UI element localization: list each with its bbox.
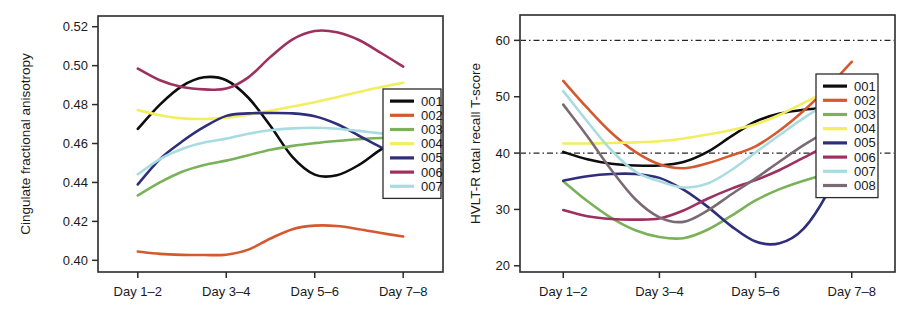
two-panel-line-chart-figure: 0.520.500.480.460.440.420.40Day 1–2Day 3… (0, 0, 917, 314)
y-axis-tick-label: 30 (496, 202, 510, 217)
x-axis-tick-label: Day 7–8 (828, 284, 876, 299)
y-axis-title: Cingulate fractional anisotropy (18, 53, 33, 235)
legend-label-004: 004 (421, 136, 443, 151)
y-axis-tick-label: 0.52 (63, 19, 88, 34)
hvlt-r-total-recall-tscore-plot: 6050403020Day 1–2Day 3–4Day 5–6Day 7–8HV… (458, 0, 917, 314)
y-axis-tick-label: 0.48 (63, 97, 88, 112)
legend-label-001: 001 (854, 79, 876, 94)
y-axis-tick-label: 50 (496, 89, 510, 104)
series-line-004 (563, 80, 851, 144)
y-axis-tick-label: 0.46 (63, 136, 88, 151)
y-axis-tick-label: 0.42 (63, 214, 88, 229)
y-axis-tick-label: 0.44 (63, 175, 88, 190)
legend-label-005: 005 (854, 135, 876, 150)
y-axis-tick-label: 0.50 (63, 58, 88, 73)
cingulate-fractional-anisotropy-plot: 0.520.500.480.460.440.420.40Day 1–2Day 3… (0, 0, 458, 314)
series-group (138, 30, 403, 255)
y-axis-tick-label: 40 (496, 146, 510, 161)
y-axis-tick-label: 60 (496, 33, 510, 48)
series-line-002 (138, 225, 403, 255)
x-axis-tick-label: Day 5–6 (291, 284, 339, 299)
chart-panel-left: 0.520.500.480.460.440.420.40Day 1–2Day 3… (0, 0, 458, 314)
legend-label-001: 001 (421, 94, 443, 109)
legend-label-002: 002 (421, 108, 443, 123)
y-axis-tick-label: 20 (496, 258, 510, 273)
legend-label-006: 006 (854, 150, 876, 165)
series-line-006 (138, 30, 403, 89)
legend-label-003: 003 (854, 107, 876, 122)
series-line-003 (563, 169, 851, 239)
x-axis-tick-label: Day 1–2 (539, 284, 587, 299)
legend-label-002: 002 (854, 93, 876, 108)
legend-label-004: 004 (854, 121, 876, 136)
legend-label-008: 008 (854, 178, 876, 193)
y-axis-title: HVLT-R total recall T-score (468, 63, 483, 224)
legend-label-007: 007 (854, 164, 876, 179)
legend-label-006: 006 (421, 165, 443, 180)
legend-label-005: 005 (421, 150, 443, 165)
x-axis-tick-label: Day 5–6 (731, 284, 779, 299)
x-axis-tick-label: Day 3–4 (635, 284, 683, 299)
x-axis-tick-label: Day 3–4 (202, 284, 250, 299)
chart-panel-right: 6050403020Day 1–2Day 3–4Day 5–6Day 7–8HV… (458, 0, 916, 314)
legend-label-003: 003 (421, 122, 443, 137)
y-axis-tick-label: 0.40 (63, 253, 88, 268)
x-axis-tick-label: Day 7–8 (379, 284, 427, 299)
x-axis-tick-label: Day 1–2 (114, 284, 162, 299)
legend-label-007: 007 (421, 179, 443, 194)
